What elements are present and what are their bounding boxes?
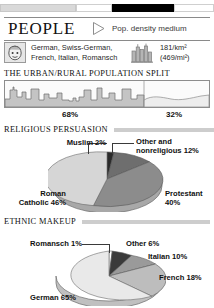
ethnic-heading-text: ETHNIC MAKEUP: [4, 217, 76, 226]
religion-label-other: Other and nonreligious 12%: [136, 137, 212, 155]
section-heading-religion: RELIGIOUS PERSUASION: [4, 125, 214, 134]
section-heading-urban-rural: THE URBAN/RURAL POPULATION SPLIT: [4, 69, 170, 78]
page-header: PEOPLE Pop. density medium: [4, 17, 210, 41]
ethnic-heading-rule: [82, 220, 210, 224]
strip-segment-4[interactable]: [174, 4, 214, 12]
section-heading-ethnic: ETHNIC MAKEUP: [4, 217, 210, 226]
religion-leader-other-v: [112, 143, 113, 154]
strip-segment-2[interactable]: [76, 4, 112, 12]
religion-label-protestant: Protestant 40%: [165, 189, 213, 207]
urban-rural-graphic: [5, 81, 209, 107]
ethnic-label-other: Other 6%: [126, 239, 188, 248]
ethnic-label-italian: Italian 10%: [148, 252, 212, 261]
ethnic-label-german: German 65%: [30, 293, 100, 302]
people-infographic-page: PEOPLE Pop. density medium German, Swiss…: [0, 0, 214, 308]
strip-segment-active[interactable]: [112, 4, 174, 12]
face-icon: [4, 42, 26, 63]
ethnic-label-romansch: Romansch 1%: [18, 239, 82, 248]
languages-text: German, Swiss-German, French, Italian, R…: [31, 43, 126, 62]
religion-heading-rule: [114, 128, 214, 132]
urban-rural-heading-text: THE URBAN/RURAL POPULATION SPLIT: [4, 69, 170, 78]
ethnic-label-french: French 18%: [159, 273, 214, 282]
city-skyline-icon: [130, 43, 154, 63]
ethnic-leader-romansch-v: [109, 244, 110, 253]
top-progress-strip: [0, 4, 214, 12]
population-density-values: 181/km² (469/mi²): [160, 43, 214, 62]
urban-percentage: 68%: [62, 110, 78, 119]
ethnic-leader-romansch-h: [82, 244, 110, 245]
religion-label-catholic: Roman Catholic 46%: [6, 189, 66, 207]
triangle-right-icon: [92, 21, 106, 36]
rural-percentage: 32%: [166, 110, 182, 119]
urban-rural-chart: [4, 80, 210, 108]
religion-heading-text: RELIGIOUS PERSUASION: [4, 125, 108, 134]
facts-row: German, Swiss-German, French, Italian, R…: [4, 42, 210, 66]
religion-label-muslim: Muslim 2%: [38, 138, 106, 147]
density-metric: 181/km²: [160, 43, 214, 53]
page-title: PEOPLE: [8, 19, 75, 39]
religion-leader-other-h: [112, 143, 134, 144]
urban-rural-labels: 68% 32%: [4, 110, 210, 121]
strip-segment-1[interactable]: [0, 4, 76, 12]
density-imperial: (469/mi²): [160, 53, 214, 63]
population-density-note: Pop. density medium: [112, 22, 187, 35]
